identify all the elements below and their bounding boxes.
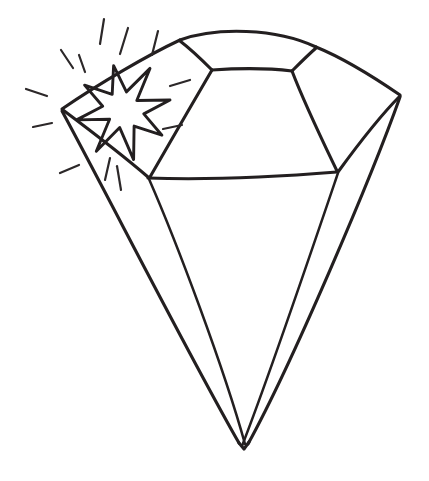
drawing-canvas: A hand-drawn outline of a cut gemstone s… — [0, 0, 429, 481]
gem-illustration — [0, 0, 429, 481]
